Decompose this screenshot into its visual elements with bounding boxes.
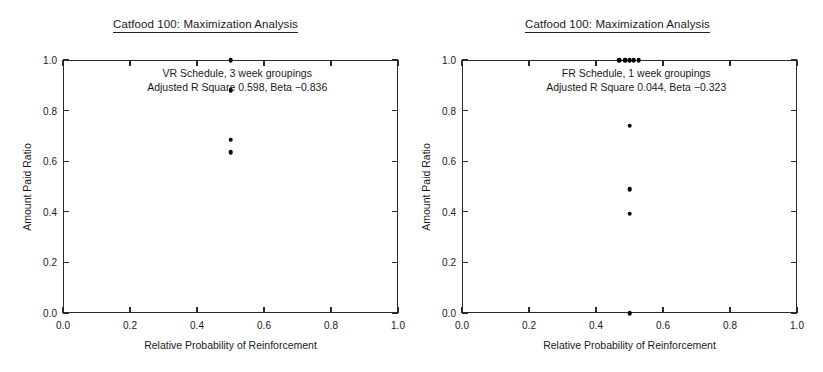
- y-tick-label: 0.0: [37, 308, 57, 319]
- y-tick-right: [392, 110, 398, 111]
- annotation-right-line2: Adjusted R Square 0.044, Beta −0.323: [546, 80, 726, 94]
- data-point: [228, 150, 233, 155]
- x-tick-bottom: [595, 307, 596, 313]
- chart-panel-left: Catfood 100: Maximization Analysis 0.00.…: [0, 0, 411, 372]
- x-tick-bottom: [196, 307, 197, 313]
- y-tick-right: [392, 59, 398, 60]
- y-tick-left: [63, 59, 69, 60]
- y-tick-label: 0.6: [37, 156, 57, 167]
- data-point: [228, 58, 233, 63]
- y-tick-right: [392, 262, 398, 263]
- annotation-left: VR Schedule, 3 week groupings Adjusted R…: [147, 66, 327, 94]
- y-tick-left: [63, 211, 69, 212]
- chart-title-left-text: Catfood 100: Maximization Analysis: [113, 18, 298, 33]
- x-tick-bottom: [129, 307, 130, 313]
- x-tick-label: 1.0: [391, 320, 405, 331]
- x-tick-label: 0.4: [589, 320, 603, 331]
- y-tick-label: 1.0: [37, 55, 57, 66]
- annotation-left-line2: Adjusted R Square 0.598, Beta −0.836: [147, 80, 327, 94]
- data-point: [627, 212, 632, 217]
- data-point: [617, 58, 622, 63]
- x-tick-top: [796, 60, 797, 66]
- y-tick-label: 0.4: [436, 206, 456, 217]
- y-axis-title-right: Amount Paid Ratio: [420, 143, 432, 231]
- y-tick-left: [63, 262, 69, 263]
- y-tick-label: 0.8: [37, 105, 57, 116]
- x-tick-label: 0.4: [190, 320, 204, 331]
- x-tick-label: 0.6: [656, 320, 670, 331]
- x-tick-bottom: [662, 307, 663, 313]
- data-point: [627, 123, 632, 128]
- y-tick-left: [462, 211, 468, 212]
- y-axis-title-left: Amount Paid Ratio: [21, 143, 33, 231]
- chart-title-right: Catfood 100: Maximization Analysis: [412, 18, 823, 30]
- figure-canvas: Catfood 100: Maximization Analysis 0.00.…: [0, 0, 823, 372]
- x-tick-label: 0.2: [123, 320, 137, 331]
- chart-panel-right: Catfood 100: Maximization Analysis 0.00.…: [412, 0, 823, 372]
- y-tick-left: [63, 312, 69, 313]
- x-tick-label: 0.0: [56, 320, 70, 331]
- x-axis-title-left: Relative Probability of Reinforcement: [144, 339, 317, 351]
- x-tick-top: [330, 60, 331, 66]
- y-tick-label: 0.2: [436, 257, 456, 268]
- y-tick-right: [791, 211, 797, 212]
- y-tick-label: 1.0: [436, 55, 456, 66]
- x-tick-bottom: [729, 307, 730, 313]
- y-tick-label: 0.0: [436, 308, 456, 319]
- y-tick-label: 0.2: [37, 257, 57, 268]
- x-tick-label: 0.6: [257, 320, 271, 331]
- x-tick-label: 0.8: [324, 320, 338, 331]
- y-tick-right: [392, 161, 398, 162]
- y-tick-left: [462, 110, 468, 111]
- y-tick-label: 0.8: [436, 105, 456, 116]
- x-axis-title-right: Relative Probability of Reinforcement: [543, 339, 716, 351]
- y-tick-right: [791, 59, 797, 60]
- y-tick-left: [462, 59, 468, 60]
- x-tick-top: [129, 60, 130, 66]
- y-tick-right: [791, 262, 797, 263]
- y-tick-left: [63, 110, 69, 111]
- x-tick-label: 1.0: [790, 320, 804, 331]
- y-tick-right: [791, 110, 797, 111]
- x-tick-bottom: [528, 307, 529, 313]
- x-tick-top: [397, 60, 398, 66]
- annotation-right-line1: FR Schedule, 1 week groupings: [546, 66, 726, 80]
- annotation-left-line1: VR Schedule, 3 week groupings: [147, 66, 327, 80]
- x-tick-top: [62, 60, 63, 66]
- data-point: [627, 311, 632, 316]
- x-tick-label: 0.0: [455, 320, 469, 331]
- plot-frame-left: [63, 60, 398, 313]
- data-point: [637, 58, 642, 63]
- y-tick-right: [392, 211, 398, 212]
- y-tick-right: [791, 161, 797, 162]
- y-tick-label: 0.6: [436, 156, 456, 167]
- y-tick-right: [791, 312, 797, 313]
- x-tick-bottom: [263, 307, 264, 313]
- x-tick-label: 0.2: [522, 320, 536, 331]
- y-tick-label: 0.4: [37, 206, 57, 217]
- annotation-right: FR Schedule, 1 week groupings Adjusted R…: [546, 66, 726, 94]
- y-tick-left: [462, 161, 468, 162]
- y-tick-left: [462, 262, 468, 263]
- y-tick-right: [392, 312, 398, 313]
- x-tick-top: [528, 60, 529, 66]
- chart-title-right-text: Catfood 100: Maximization Analysis: [525, 18, 710, 33]
- y-tick-left: [63, 161, 69, 162]
- data-point: [632, 58, 637, 63]
- x-tick-bottom: [330, 307, 331, 313]
- x-tick-top: [729, 60, 730, 66]
- x-tick-top: [461, 60, 462, 66]
- y-tick-left: [462, 312, 468, 313]
- data-point: [627, 187, 632, 192]
- chart-title-left: Catfood 100: Maximization Analysis: [0, 18, 411, 30]
- data-point: [228, 137, 233, 142]
- x-tick-label: 0.8: [723, 320, 737, 331]
